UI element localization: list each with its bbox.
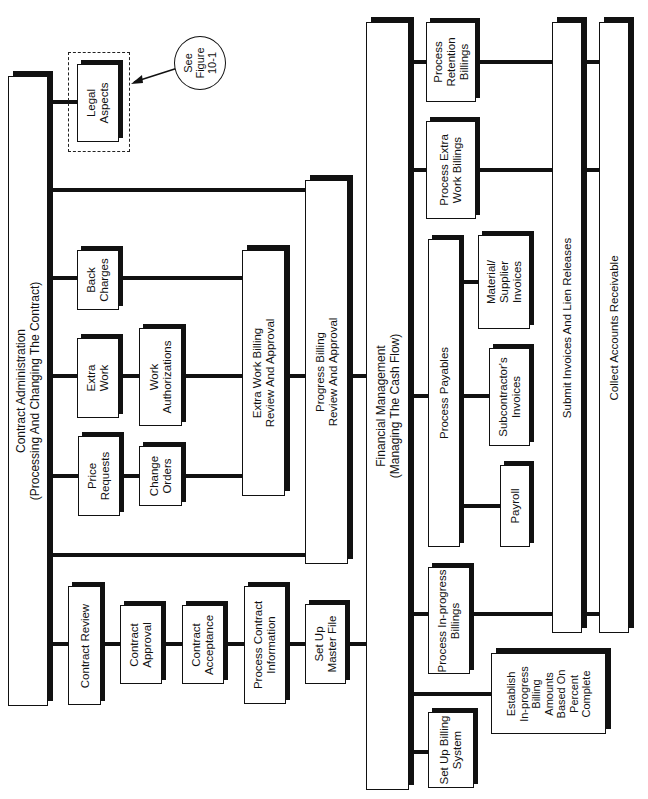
process-payables-box: Process Payables bbox=[428, 239, 460, 547]
connector-wa-ewb bbox=[182, 374, 242, 378]
connector-fm-inprogress bbox=[409, 612, 429, 616]
process-inprogress-billings-label: Process In-progress Billings bbox=[436, 569, 462, 672]
collect-accounts-receivable-label: Collect Accounts Receivable bbox=[608, 255, 621, 400]
payroll-label: Payroll bbox=[509, 488, 522, 523]
process-payables-label: Process Payables bbox=[438, 347, 451, 439]
process-contract-information-box: Process Contract Information bbox=[244, 586, 286, 704]
connector-progress-top bbox=[48, 188, 306, 192]
price-requests-label: Price Requests bbox=[86, 452, 112, 501]
contract-administration-label: Contract Administration (Processing And … bbox=[14, 282, 42, 501]
connector-fm-retention bbox=[409, 60, 427, 64]
submit-invoices-label: Submit Invoices And Lien Releases bbox=[561, 237, 574, 417]
connector-payroll bbox=[460, 504, 500, 508]
contract-acceptance-box: Contract Acceptance bbox=[182, 605, 224, 684]
connector-progress-bottom bbox=[48, 553, 306, 557]
contract-approval-label: Contract Approval bbox=[128, 622, 154, 667]
process-retention-billings-box: Process Retention Billings bbox=[426, 22, 476, 102]
legal-aspects-box: Legal Aspects bbox=[77, 64, 119, 142]
progress-billing-label: Progress Billing Review And Approval bbox=[314, 318, 340, 427]
financial-management-box: Financial Management (Managing The Cash … bbox=[366, 22, 409, 790]
price-requests-box: Price Requests bbox=[78, 436, 120, 516]
connector-back-charges bbox=[48, 276, 78, 280]
see-figure-label: See Figure 10-1 bbox=[182, 47, 218, 78]
connector-submit-collect-3 bbox=[582, 612, 600, 616]
process-contract-information-label: Process Contract Information bbox=[252, 601, 278, 689]
extra-work-billing-box: Extra Work Billing Review And Approval bbox=[242, 250, 285, 496]
connector-retention-submit bbox=[476, 60, 552, 64]
back-charges-label: Back Charges bbox=[85, 258, 111, 301]
process-retention-billings-label: Process Retention Billings bbox=[432, 37, 471, 86]
connector-price bbox=[48, 474, 78, 478]
collect-accounts-receivable-box: Collect Accounts Receivable bbox=[599, 22, 629, 633]
establish-billing-amounts-box: Establish In-progress Billing Amounts Ba… bbox=[491, 653, 606, 734]
contract-review-box: Contract Review bbox=[68, 586, 101, 705]
payroll-box: Payroll bbox=[500, 465, 530, 547]
establish-billing-amounts-label: Establish In-progress Billing Amounts Ba… bbox=[505, 666, 593, 722]
process-inprogress-billings-box: Process In-progress Billings bbox=[428, 567, 470, 674]
process-extra-work-billings-box: Process Extra Work Billings bbox=[426, 121, 476, 219]
contract-administration-box: Contract Administration (Processing And … bbox=[8, 76, 48, 706]
connector-payables-spine bbox=[460, 280, 464, 518]
set-up-billing-system-box: Set Up Billing System bbox=[428, 712, 474, 788]
back-charges-box: Back Charges bbox=[77, 250, 119, 310]
connector-ewb-progress bbox=[285, 374, 306, 378]
submit-invoices-box: Submit Invoices And Lien Releases bbox=[552, 22, 582, 633]
connector-price-co bbox=[120, 474, 140, 478]
contract-approval-box: Contract Approval bbox=[120, 605, 162, 684]
contract-review-label: Contract Review bbox=[78, 603, 91, 687]
connector-submit-collect-1 bbox=[582, 60, 600, 64]
connector-material bbox=[460, 280, 478, 284]
set-up-master-file-box: Set Up Master File bbox=[305, 604, 346, 684]
work-authorizations-label: Work Authorizations bbox=[148, 341, 174, 414]
work-authorizations-box: Work Authorizations bbox=[139, 328, 182, 426]
extra-work-box: Extra Work bbox=[77, 338, 119, 418]
material-supplier-invoices-box: Material/ Supplier Invoices bbox=[478, 235, 530, 329]
see-figure-callout: See Figure 10-1 bbox=[174, 36, 226, 90]
subcontractors-invoices-box: Subcontractor's Invoices bbox=[489, 348, 530, 446]
connector-fm-establish bbox=[409, 692, 491, 696]
extra-work-billing-label: Extra Work Billing Review And Approval bbox=[251, 319, 277, 428]
connector-submit-collect-2 bbox=[582, 168, 600, 172]
change-orders-box: Change Orders bbox=[139, 446, 182, 506]
financial-management-label: Financial Management (Managing The Cash … bbox=[374, 334, 402, 479]
connector-co-ewb bbox=[182, 474, 242, 478]
legal-aspects-label: Legal Aspects bbox=[85, 83, 111, 124]
set-up-master-file-label: Set Up Master File bbox=[313, 616, 339, 673]
connector-fm-extra bbox=[409, 168, 427, 172]
connector-inprogress-submit bbox=[470, 612, 552, 616]
connector-extra-work bbox=[48, 374, 78, 378]
contract-acceptance-label: Contract Acceptance bbox=[190, 614, 216, 674]
connector-extra-work-wa bbox=[118, 374, 140, 378]
change-orders-label: Change Orders bbox=[148, 456, 174, 496]
diagram-canvas: See Figure 10-1 Contract Administration … bbox=[0, 0, 648, 799]
subcontractors-invoices-label: Subcontractor's Invoices bbox=[497, 357, 523, 437]
progress-billing-box: Progress Billing Review And Approval bbox=[305, 180, 348, 564]
process-extra-work-billings-label: Process Extra Work Billings bbox=[438, 134, 464, 206]
material-supplier-invoices-label: Material/ Supplier Invoices bbox=[485, 260, 524, 304]
connector-fm-payables bbox=[409, 394, 429, 398]
connector-progress-fm bbox=[348, 374, 368, 378]
connector-subcontractor bbox=[460, 394, 489, 398]
connector-back-charges-ewb bbox=[118, 276, 242, 280]
set-up-billing-system-label: Set Up Billing System bbox=[438, 715, 464, 784]
connector-fm-billing-system bbox=[409, 750, 429, 754]
connector-extra-submit bbox=[476, 168, 552, 172]
extra-work-label: Extra Work bbox=[85, 365, 111, 392]
